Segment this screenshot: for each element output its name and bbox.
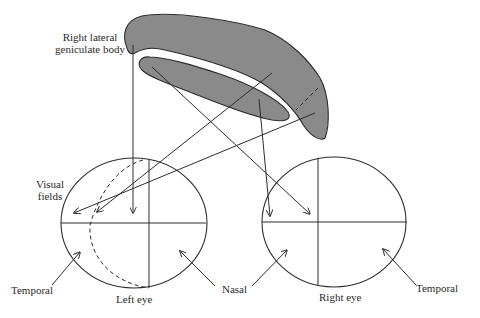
visual-fields-label: Visual fields	[32, 178, 68, 202]
visual-fields-label-line2: fields	[32, 190, 68, 202]
left-eye-field	[61, 158, 207, 288]
lgb-label-line1: Right lateral	[50, 31, 130, 43]
lgb-label: Right lateral geniculate body	[50, 31, 130, 55]
temporal-left-label: Temporal	[11, 284, 53, 296]
temporal-right-label: Temporal	[416, 282, 458, 294]
nasal-label: Nasal	[222, 283, 247, 295]
lgb-label-line2: geniculate body	[50, 43, 130, 55]
visual-pathway-diagram: Right lateral geniculate body Visual fie…	[0, 0, 480, 318]
left-eye-label: Left eye	[116, 293, 152, 305]
left-eye-dashed-field-boundary	[90, 160, 149, 288]
right-eye-label: Right eye	[319, 291, 361, 303]
right-eye-field	[262, 157, 407, 287]
visual-fields-label-line1: Visual	[32, 178, 68, 190]
